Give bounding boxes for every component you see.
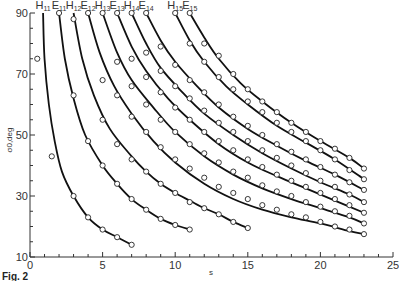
x-axis-label: s xyxy=(209,268,213,277)
data-point xyxy=(361,210,366,215)
data-point xyxy=(289,120,294,125)
data-point xyxy=(216,53,221,58)
data-point xyxy=(144,207,149,212)
data-point xyxy=(216,139,221,144)
data-point xyxy=(187,200,192,205)
data-point xyxy=(274,207,279,212)
data-point xyxy=(318,164,323,169)
data-point xyxy=(231,114,236,119)
curve-e13 xyxy=(117,13,364,213)
data-point xyxy=(231,71,236,76)
data-point xyxy=(187,41,192,46)
data-point xyxy=(245,87,250,92)
data-point xyxy=(361,177,366,182)
data-point xyxy=(115,181,120,186)
data-point xyxy=(216,102,221,107)
data-point xyxy=(260,148,265,153)
data-point xyxy=(202,129,207,134)
data-point xyxy=(216,120,221,125)
data-point xyxy=(158,181,163,186)
data-point xyxy=(49,154,54,159)
curve-label-h15: H15 xyxy=(167,0,183,12)
data-point xyxy=(231,129,236,134)
data-point xyxy=(318,148,323,153)
curve-label-h12: H12 xyxy=(66,0,82,12)
data-point xyxy=(245,157,250,162)
data-point xyxy=(361,200,366,205)
data-point xyxy=(71,193,76,198)
data-point xyxy=(332,184,337,189)
data-point xyxy=(289,193,294,198)
data-point xyxy=(187,78,192,83)
data-point xyxy=(115,235,120,240)
data-point xyxy=(158,68,163,73)
data-point xyxy=(158,90,163,95)
data-point xyxy=(347,192,352,197)
data-point xyxy=(173,129,178,134)
data-point xyxy=(115,93,120,98)
data-point xyxy=(158,117,163,122)
data-point xyxy=(173,222,178,227)
data-point xyxy=(216,74,221,79)
data-point xyxy=(202,175,207,180)
curve-e14 xyxy=(146,13,364,190)
data-point xyxy=(129,196,134,201)
data-point xyxy=(274,172,279,177)
curve-labels: H11E11H12E12H13E13H14E14H15E15 xyxy=(35,0,197,12)
data-point xyxy=(289,212,294,217)
data-point xyxy=(318,190,323,195)
x-tick-label: 15 xyxy=(242,259,254,271)
data-point xyxy=(245,196,250,201)
data-point xyxy=(274,155,279,160)
data-point xyxy=(144,50,149,55)
data-point xyxy=(289,163,294,168)
data-point xyxy=(289,178,294,183)
data-point xyxy=(187,96,192,101)
axes: 05101520251030507090σ0,deg xyxy=(5,7,399,271)
data-point xyxy=(100,78,105,83)
data-point xyxy=(274,189,279,194)
data-point xyxy=(202,59,207,64)
y-tick-label: 30 xyxy=(16,190,28,202)
curve-label-e14: E14 xyxy=(139,0,154,12)
data-point xyxy=(303,184,308,189)
curve-label-h13: H13 xyxy=(95,0,111,12)
curve-label-e11: E11 xyxy=(52,0,67,12)
data-point xyxy=(245,225,250,230)
x-tick-label: 25 xyxy=(387,259,399,271)
data-point xyxy=(100,227,105,232)
x-tick-label: 10 xyxy=(169,259,181,271)
data-point xyxy=(274,120,279,125)
data-point xyxy=(231,148,236,153)
curve-h14 xyxy=(132,13,364,202)
data-point xyxy=(347,227,352,232)
data-point xyxy=(245,139,250,144)
data-point xyxy=(173,190,178,195)
data-point xyxy=(347,167,352,172)
data-point xyxy=(332,224,337,229)
data-point xyxy=(347,180,352,185)
data-point xyxy=(245,175,250,180)
curve-label-e15: E15 xyxy=(182,0,197,12)
data-point xyxy=(129,56,134,61)
data-point xyxy=(332,172,337,177)
curve-label-h14: H14 xyxy=(124,0,140,12)
data-point xyxy=(318,204,323,209)
data-point xyxy=(187,166,192,171)
data-point xyxy=(303,157,308,162)
data-point xyxy=(361,187,366,192)
figure-label: Fig. 2 xyxy=(2,271,29,281)
data-point xyxy=(115,142,120,147)
data-point xyxy=(231,87,236,92)
data-point xyxy=(332,146,337,151)
data-point xyxy=(129,114,134,119)
data-point xyxy=(129,84,134,89)
y-axis-label: σ0,deg xyxy=(5,128,14,153)
data-point xyxy=(260,110,265,115)
data-point xyxy=(202,151,207,156)
data-point xyxy=(216,212,221,217)
data-point xyxy=(144,129,149,134)
data-point xyxy=(202,206,207,211)
data-point xyxy=(260,132,265,137)
data-point xyxy=(231,190,236,195)
